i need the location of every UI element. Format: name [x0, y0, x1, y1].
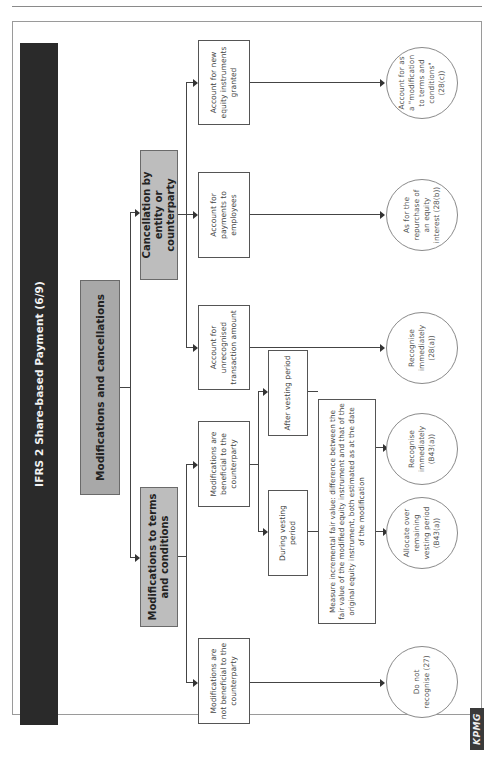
arrow-icon [380, 344, 385, 352]
arrow-icon [380, 211, 385, 219]
page-title: IFRS 2 Share-based Payment (6/9) [20, 43, 58, 725]
arrow-icon [380, 679, 385, 687]
connector [308, 531, 318, 532]
outcome-recognise-immediately-b43: Recognise immediately (B43(a)) [386, 413, 458, 485]
box-after-vesting: After vesting period [268, 350, 308, 436]
connector [308, 391, 318, 392]
box-not-beneficial: Modifications are not beneficial to the … [198, 638, 250, 724]
connector [186, 83, 187, 348]
box-measure-fair-value: Measure incremental fair value: differen… [318, 399, 376, 624]
branch-cancellation: Cancellation by entity or counterparty [140, 150, 178, 280]
branch-modifications: Modifications to terms and conditions [140, 487, 178, 627]
outcome-do-not-recognise: Do not recognise (27) [386, 646, 458, 718]
connector [250, 682, 380, 683]
connector [186, 465, 187, 683]
kpmg-logo: KPMG [470, 708, 484, 750]
box-new-equity-instruments: Account for new equity instruments grant… [198, 40, 250, 125]
outcome-account-as-modification: Account for as a "modification to terms … [386, 47, 458, 119]
box-payments-to-employees: Account for payments to employees [198, 172, 250, 258]
connector [250, 82, 380, 83]
connector [250, 214, 380, 215]
box-unrecognised-amount: Account for unrecognised transaction amo… [198, 305, 250, 390]
connector [178, 556, 186, 557]
outcome-allocate-remaining: Allocate over remaining vesting period (… [386, 497, 458, 569]
root-box: Modifications and cancellations [80, 280, 120, 495]
connector [250, 464, 258, 465]
box-during-vesting: During vesting period [268, 490, 308, 576]
arrow-icon [380, 79, 385, 87]
box-beneficial: Modifications are beneficial to the coun… [198, 421, 250, 507]
connector [130, 213, 131, 558]
connector [120, 387, 130, 388]
connector [178, 214, 186, 215]
connector [250, 347, 380, 348]
outcome-recognise-immediately-28a: Recognise immediately (28(a)) [386, 312, 458, 384]
outcome-repurchase-equity: As for the repurchase of an equity inter… [386, 179, 458, 251]
diagram-stage: IFRS 2 Share-based Payment (6/9) KPMG Mo… [0, 0, 497, 758]
connector [258, 392, 259, 532]
